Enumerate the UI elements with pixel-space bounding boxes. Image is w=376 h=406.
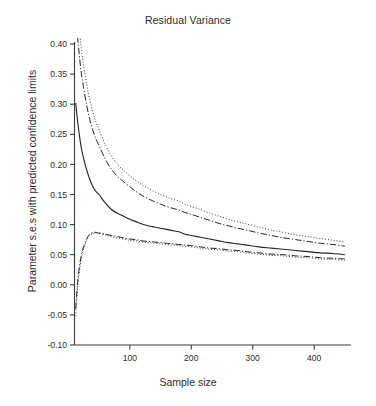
y-tick-label: 0.05	[50, 250, 67, 260]
y-tick-label: -0.10	[47, 340, 67, 350]
x-tick-label: 200	[184, 353, 199, 363]
y-tick-label: 0.40	[50, 39, 67, 49]
plot-area: -0.10-0.050.000.050.100.150.200.250.300.…	[0, 0, 376, 406]
series-line	[76, 232, 345, 309]
series-line	[76, 103, 345, 255]
y-axis: -0.10-0.050.000.050.100.150.200.250.300.…	[47, 39, 74, 350]
y-tick-label: 0.30	[50, 99, 67, 109]
series-line	[76, 233, 345, 316]
series-line	[76, 13, 345, 247]
chart-figure: Residual Variance Parameter s.e.s with p…	[0, 0, 376, 406]
x-tick-label: 100	[123, 353, 138, 363]
x-axis: 100200300400	[75, 345, 352, 363]
x-tick-label: 300	[246, 353, 261, 363]
y-tick-label: 0.20	[50, 160, 67, 170]
y-tick-label: 0.10	[50, 220, 67, 230]
y-tick-label: 0.00	[50, 280, 67, 290]
x-tick-label: 400	[307, 353, 322, 363]
series-line	[76, 0, 345, 242]
data-series-group	[76, 0, 345, 316]
y-tick-label: 0.15	[50, 190, 67, 200]
y-tick-label: 0.35	[50, 69, 67, 79]
y-tick-label: -0.05	[47, 310, 67, 320]
y-tick-label: 0.25	[50, 129, 67, 139]
